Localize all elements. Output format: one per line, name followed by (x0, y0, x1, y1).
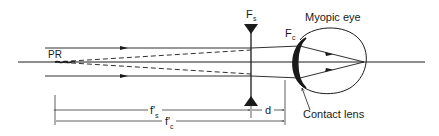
contact-focal-label: F (285, 27, 292, 39)
contact-lens-label: Contact lens (303, 108, 365, 120)
ray-bottom-eye (251, 76, 300, 78)
vertex-distance-label: d (265, 104, 271, 116)
ray-top-retina (300, 46, 364, 62)
contact-lens-pointer (302, 88, 310, 110)
myopic-eye (300, 28, 366, 94)
spectacle-focal-length-sub: s (155, 112, 159, 119)
contact-focal-length-sub: c (170, 123, 174, 130)
eye-label: Myopic eye (305, 11, 361, 23)
ray-bottom-arrow (120, 74, 128, 78)
contact-focal-sub: c (292, 34, 296, 41)
virtual-ray-top (55, 50, 251, 62)
contact-lens (293, 38, 306, 88)
ray-bottom-retina (300, 62, 364, 78)
spectacle-lens-top-arrowhead (244, 24, 258, 34)
myopia-correction-diagram: PR F s F c Myopic eye Contact lens d f' … (0, 0, 439, 136)
ray-top-eye (251, 46, 300, 48)
far-point-label: PR (48, 49, 62, 60)
spectacle-focal-sub: s (253, 15, 257, 22)
spectacle-focal-label: F (246, 8, 253, 20)
virtual-ray-bottom (55, 62, 251, 74)
ray-top-arrow (120, 46, 128, 50)
